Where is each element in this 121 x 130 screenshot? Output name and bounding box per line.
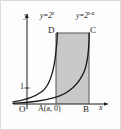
exponential-curves-figure: y x O 1 A(a, 0) B C D y=2x y=2x-a [0, 0, 121, 130]
curve-left-exponent: x [52, 10, 54, 16]
shaded-rectangle-ABCD [56, 33, 89, 104]
curve-left-equation-label: y=2x [40, 12, 54, 20]
origin-label: O [19, 105, 26, 114]
curve-left-base: y=2 [40, 11, 52, 20]
point-d-label: D [48, 26, 55, 35]
y-axis-label: y [24, 12, 28, 20]
curve-right-base: y=2 [76, 11, 88, 20]
curve-right-equation-label: y=2x-a [76, 12, 94, 20]
point-b-label: B [83, 105, 89, 114]
point-a-label: A(a, 0) [38, 105, 61, 113]
curve-right-exponent: x-a [88, 10, 95, 16]
y-tick-one-label: 1 [20, 83, 24, 91]
point-c-label: C [90, 26, 96, 35]
x-axis-label: x [99, 104, 103, 112]
